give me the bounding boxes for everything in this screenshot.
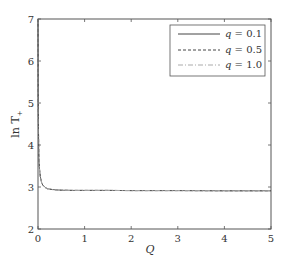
x-tick-label: 4 [221, 233, 227, 244]
legend-label-2: q = 1.0 [225, 59, 262, 70]
y-tick-label: 6 [28, 56, 34, 67]
y-tick-label: 2 [28, 224, 34, 235]
legend-label-0: q = 0.1 [225, 28, 262, 39]
legend: q = 0.1 q = 0.5 q = 1.0 [170, 25, 265, 76]
x-tick-label: 2 [128, 233, 134, 244]
y-tick-label: 5 [28, 98, 34, 109]
x-tick-label: 3 [175, 233, 181, 244]
y-axis-label: ln T+ [9, 110, 24, 137]
line-chart: 012345234567 Q ln T+ q = 0.1 q = 0.5 q =… [0, 0, 285, 265]
x-tick-label: 1 [81, 233, 87, 244]
legend-label-1: q = 0.5 [225, 44, 262, 55]
svg-text:ln T+: ln T+ [9, 110, 24, 137]
y-tick-label: 4 [28, 140, 34, 151]
x-tick-label: 0 [35, 233, 41, 244]
x-axis-label: Q [145, 243, 154, 256]
y-tick-label: 3 [28, 182, 34, 193]
y-axis-label-sub: + [16, 110, 24, 116]
x-tick-label: 5 [268, 233, 274, 244]
y-axis-label-main: ln T [9, 116, 22, 138]
y-tick-label: 7 [28, 14, 34, 25]
